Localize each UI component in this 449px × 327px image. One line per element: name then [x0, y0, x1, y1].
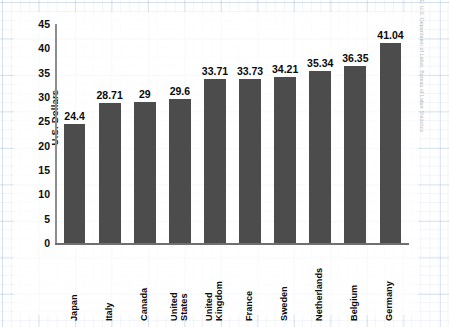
x-axis-category-line: Belgium	[350, 247, 360, 321]
y-axis-tick: 45	[22, 19, 50, 29]
x-axis-category-line: Canada	[140, 247, 150, 321]
bar-group: 28.71	[99, 24, 121, 243]
x-axis-category-text: UnitedKingdom	[205, 247, 225, 321]
y-axis-tick: 30	[22, 92, 50, 102]
source-credit: SOURCE: U.S. Department of Labor, Bureau…	[419, 0, 425, 210]
bar-value-label: 28.71	[97, 90, 123, 101]
x-axis-category-text: Belgium	[350, 247, 360, 321]
bar[interactable]	[134, 102, 156, 243]
x-axis-category-line: States	[180, 247, 190, 321]
bar-value-label: 36.35	[342, 53, 368, 64]
x-axis-category-line: Italy	[105, 247, 115, 321]
bar-value-label: 29.6	[170, 86, 190, 97]
x-axis-category: Japan	[57, 247, 92, 323]
x-axis-category: Belgium	[338, 247, 373, 323]
bar-group: 36.35	[344, 24, 366, 243]
x-axis-category: UnitedKingdom	[197, 247, 232, 323]
x-axis-category: Germany	[373, 247, 408, 323]
bar-group: 33.71	[204, 24, 226, 243]
bar-value-label: 29	[139, 89, 151, 100]
bar[interactable]	[380, 43, 402, 243]
x-axis-category-text: Netherlands	[315, 247, 325, 321]
x-axis-category-text: Germany	[385, 247, 395, 321]
x-axis-category: France	[233, 247, 268, 323]
x-axis-category-text: Italy	[105, 247, 115, 321]
x-axis-category-text: France	[245, 247, 255, 321]
y-axis-tick: 25	[22, 116, 50, 126]
x-axis-category: UnitedStates	[162, 247, 197, 323]
x-axis-category: Italy	[92, 247, 127, 323]
bar-group: 29	[134, 24, 156, 243]
bar-group: 35.34	[309, 24, 331, 243]
bar-value-label: 33.71	[202, 66, 228, 77]
y-axis-tick: 20	[22, 141, 50, 151]
bar[interactable]	[169, 99, 191, 243]
x-axis-category-text: Canada	[140, 247, 150, 321]
bar-value-label: 41.04	[377, 30, 403, 41]
x-axis-category: Sweden	[268, 247, 303, 323]
y-axis-tick-labels: 454035302520151050	[22, 0, 50, 327]
bar-group: 33.73	[239, 24, 261, 243]
x-axis-category-text: UnitedStates	[170, 247, 190, 321]
bar[interactable]	[204, 79, 226, 243]
y-axis-tick: 5	[22, 214, 50, 224]
y-axis-tick: 15	[22, 165, 50, 175]
x-axis-category-text: Sweden	[280, 247, 290, 321]
bar[interactable]	[99, 103, 121, 243]
bar-value-label: 24.4	[64, 111, 84, 122]
bar-chart: U.S. Dollars 454035302520151050 24.428.7…	[0, 0, 449, 327]
x-axis-category: Netherlands	[303, 247, 338, 323]
bar-series: 24.428.712929.633.7133.7334.2135.3436.35…	[57, 24, 408, 243]
y-axis-tick: 35	[22, 68, 50, 78]
x-axis-line	[55, 243, 409, 245]
x-axis-category-line: Japan	[70, 247, 80, 321]
bar[interactable]	[64, 124, 86, 243]
bar[interactable]	[309, 71, 331, 243]
bar-group: 41.04	[380, 24, 402, 243]
x-axis-category-line: Sweden	[280, 247, 290, 321]
x-axis-category-text: Japan	[70, 247, 80, 321]
bar-group: 29.6	[169, 24, 191, 243]
y-axis-tick: 10	[22, 189, 50, 199]
x-axis-category-line: Netherlands	[315, 247, 325, 321]
bar-group: 34.21	[274, 24, 296, 243]
y-axis-tick: 0	[22, 238, 50, 248]
x-axis-category-labels: JapanItalyCanadaUnitedStatesUnitedKingdo…	[57, 247, 408, 325]
x-axis-category-line: France	[245, 247, 255, 321]
bar[interactable]	[344, 66, 366, 243]
bar-group: 24.4	[64, 24, 86, 243]
bar-value-label: 35.34	[307, 58, 333, 69]
bar-value-label: 34.21	[272, 64, 298, 75]
bar[interactable]	[274, 77, 296, 243]
bar-value-label: 33.73	[237, 66, 263, 77]
x-axis-category: Canada	[127, 247, 162, 323]
x-axis-category-line: Germany	[385, 247, 395, 321]
y-axis-tick: 40	[22, 43, 50, 53]
x-axis-category-line: Kingdom	[215, 247, 225, 321]
bar[interactable]	[239, 79, 261, 243]
